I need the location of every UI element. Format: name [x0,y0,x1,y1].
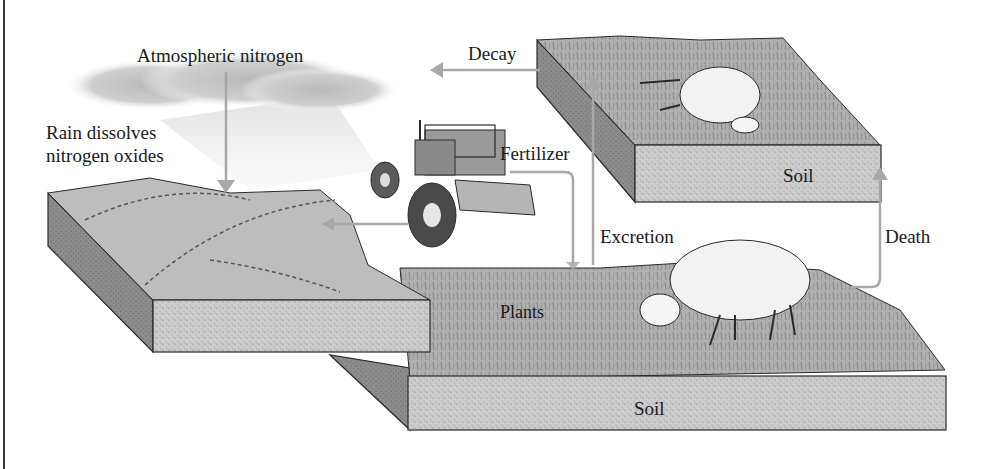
label-plants: Plants [500,301,544,323]
hill-soil-block [48,178,430,352]
label-excretion: Excretion [600,226,674,248]
label-soil-top: Soil [783,165,814,187]
tractor-illustration [371,120,535,247]
label-soil-bottom: Soil [634,398,665,420]
label-rain-line1: Rain dissolves [46,122,156,144]
label-decay: Decay [468,43,517,65]
label-atmospheric-nitrogen: Atmospheric nitrogen [137,45,303,67]
label-death: Death [885,226,930,248]
label-rain-line2: nitrogen oxides [46,145,164,167]
cloud-illustration [65,52,400,190]
nitrogen-cycle-diagram [0,0,986,469]
label-fertilizer: Fertilizer [500,143,570,165]
